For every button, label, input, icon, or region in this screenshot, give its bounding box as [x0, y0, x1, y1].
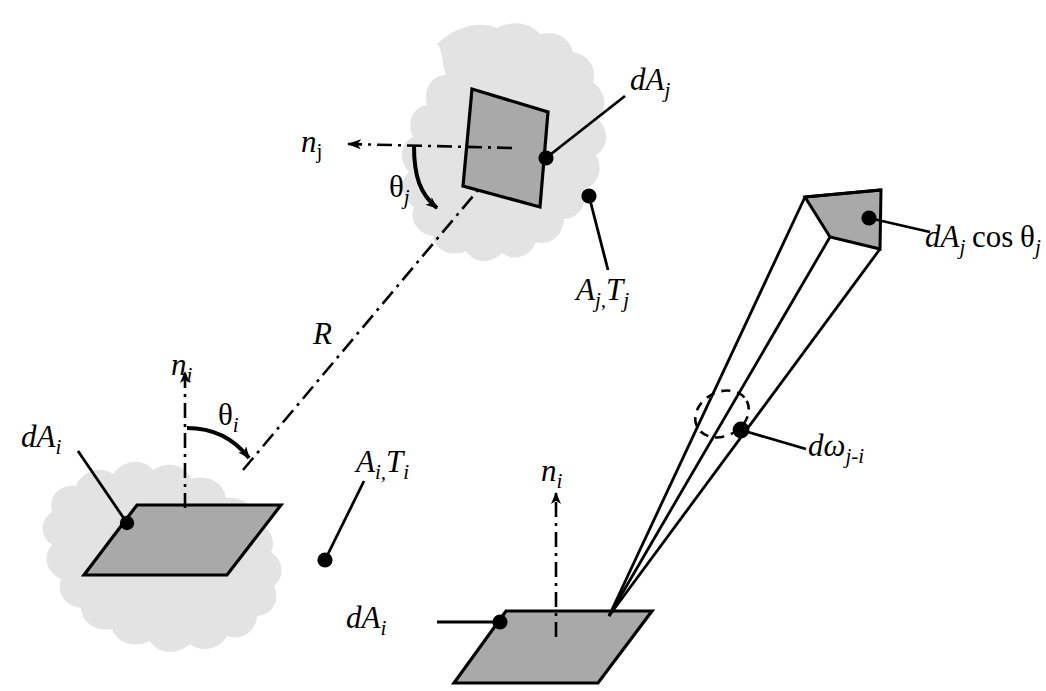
label-n-j: nj	[301, 126, 322, 162]
label-A-j-T-j: Aj,Tj	[576, 274, 629, 311]
leader-A-j-T-j	[581, 188, 608, 270]
label-A-i-T-i: Ai,Ti	[356, 446, 409, 483]
label-d-omega-j-i: dωj-i	[808, 430, 864, 467]
label-theta-i: θi	[218, 399, 239, 436]
diagram-canvas	[0, 0, 1046, 691]
solid-angle-ellipse	[687, 381, 757, 446]
label-dA-j: dAj	[630, 64, 670, 101]
label-theta-j: θj	[389, 171, 410, 208]
label-n-i-bottom: ni	[541, 455, 562, 492]
leader-d-omega	[733, 422, 806, 449]
ray-R	[243, 152, 510, 470]
label-dA-i-left: dAi	[21, 421, 61, 458]
label-n-i-left: ni	[171, 349, 192, 386]
label-dA-i-bottom: dAi	[346, 602, 386, 639]
solid-angle-beam	[609, 190, 881, 616]
label-dA-j-cos-theta-j: dAj cos θj	[925, 221, 1041, 258]
label-R: R	[313, 318, 332, 349]
radiation-view-factor-diagram: nj θj dAj Aj,Tj R ni θi dAi Ai,Ti dAj co…	[0, 0, 1046, 691]
leader-A-i-T-i	[317, 481, 364, 568]
leader-dA-i-bottom	[437, 614, 508, 629]
